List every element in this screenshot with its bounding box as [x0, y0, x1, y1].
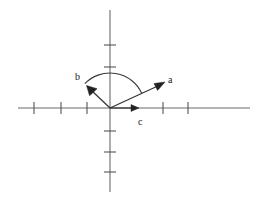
vector-a-arrowhead [154, 82, 165, 90]
vector-c-arrowhead [131, 105, 139, 112]
axes-group [18, 10, 250, 192]
vector-b-label: b [75, 71, 80, 82]
vector-b-group [87, 86, 111, 109]
vector-diagram-figure: a b c [0, 0, 266, 207]
vector-b-shaft [91, 90, 110, 108]
vector-a-label: a [168, 74, 173, 85]
vector-a-shaft [110, 85, 160, 108]
vector-diagram-canvas: a b c [0, 0, 266, 207]
vector-c-label: c [138, 116, 143, 127]
